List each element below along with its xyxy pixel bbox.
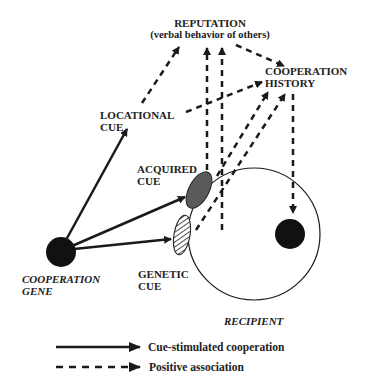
cooperation-history-line2: HISTORY — [265, 77, 347, 89]
cooperation-gene-line2: GENE — [22, 285, 100, 297]
solid-arrows — [66, 129, 185, 249]
diagram-graphics — [0, 0, 372, 392]
reputation-label: REPUTATION (verbal behavior of others) — [150, 17, 270, 41]
cooperation-gene-dot — [46, 237, 76, 267]
acquired-cue-line2: CUE — [137, 175, 197, 187]
locational-cue-line1: LOCATIONAL — [100, 109, 174, 121]
cooperation-history-label: COOPERATION HISTORY — [265, 65, 347, 89]
recipient-label: RECIPIENT — [224, 315, 283, 327]
legend-solid-label: Cue-stimulated cooperation — [148, 341, 284, 353]
acquired-cue-label: ACQUIRED CUE — [137, 163, 197, 187]
reputation-subtitle: (verbal behavior of others) — [150, 29, 270, 41]
genetic-cue-line1: GENETIC — [138, 268, 189, 280]
cooperation-history-line1: COOPERATION — [265, 65, 347, 77]
legend-dashed-label: Positive association — [149, 361, 244, 373]
diagram-canvas: REPUTATION (verbal behavior of others) C… — [0, 0, 372, 392]
genetic-cue-label: GENETIC CUE — [138, 268, 189, 292]
locational-cue-label: LOCATIONAL CUE — [100, 109, 174, 133]
recipient-dot — [275, 219, 305, 249]
locational-cue-line2: CUE — [100, 121, 174, 133]
acquired-cue-line1: ACQUIRED — [137, 163, 197, 175]
cooperation-gene-label: COOPERATION GENE — [22, 273, 100, 297]
genetic-cue-line2: CUE — [138, 280, 189, 292]
cooperation-gene-line1: COOPERATION — [22, 273, 100, 285]
reputation-title: REPUTATION — [150, 17, 270, 29]
